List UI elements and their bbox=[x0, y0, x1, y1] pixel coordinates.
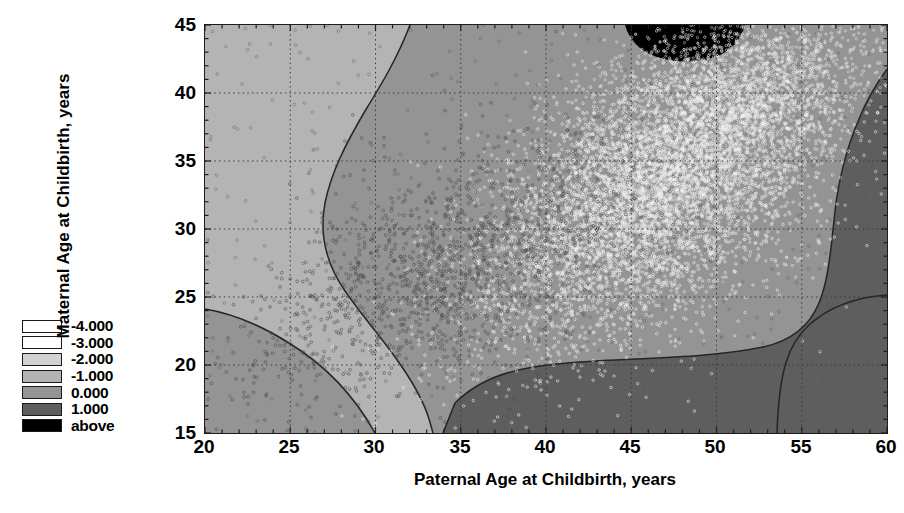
contour-density-figure: -4.000 -3.000 -2.000 -1.000 0.000 1.000 … bbox=[0, 0, 904, 513]
y-tick-label: 20 bbox=[154, 355, 196, 374]
legend-swatch bbox=[22, 403, 62, 416]
x-axis-title: Paternal Age at Childbirth, years bbox=[204, 470, 886, 490]
x-tick-label: 55 bbox=[779, 437, 823, 456]
x-axis-tick-labels: 20 25 30 35 40 45 50 55 60 bbox=[0, 437, 904, 467]
x-tick-label: 20 bbox=[182, 437, 226, 456]
x-tick-label: 35 bbox=[438, 437, 482, 456]
y-tick-label: 45 bbox=[154, 15, 196, 34]
legend: -4.000 -3.000 -2.000 -1.000 0.000 1.000 … bbox=[22, 318, 172, 434]
x-tick-label: 30 bbox=[352, 437, 396, 456]
legend-swatch bbox=[22, 386, 62, 399]
y-tick-label: 35 bbox=[154, 151, 196, 170]
x-tick-label: 45 bbox=[608, 437, 652, 456]
legend-item: above bbox=[22, 418, 172, 435]
legend-item: -3.000 bbox=[22, 335, 172, 352]
legend-label: 1.000 bbox=[71, 400, 108, 418]
x-tick-label: 25 bbox=[267, 437, 311, 456]
plot-area bbox=[204, 24, 888, 434]
legend-label: above bbox=[71, 417, 114, 435]
legend-label: -3.000 bbox=[71, 334, 113, 352]
legend-item: 0.000 bbox=[22, 384, 172, 401]
y-tick-label: 40 bbox=[154, 83, 196, 102]
contour-plot-svg bbox=[205, 25, 887, 433]
legend-item: -1.000 bbox=[22, 368, 172, 385]
legend-label: -4.000 bbox=[71, 317, 113, 335]
legend-item: -4.000 bbox=[22, 318, 172, 335]
legend-label: -1.000 bbox=[71, 367, 113, 385]
y-tick-label: 30 bbox=[154, 219, 196, 238]
legend-label: -2.000 bbox=[71, 350, 113, 368]
x-tick-label: 60 bbox=[864, 437, 904, 456]
legend-label: 0.000 bbox=[71, 384, 108, 402]
x-tick-label: 40 bbox=[523, 437, 567, 456]
legend-swatch bbox=[22, 419, 62, 432]
y-tick-label: 25 bbox=[154, 287, 196, 306]
x-tick-label: 50 bbox=[693, 437, 737, 456]
y-axis-title: Maternal Age at Childbirth, years bbox=[54, 56, 74, 356]
legend-item: -2.000 bbox=[22, 351, 172, 368]
legend-item: 1.000 bbox=[22, 401, 172, 418]
legend-swatch bbox=[22, 370, 62, 383]
